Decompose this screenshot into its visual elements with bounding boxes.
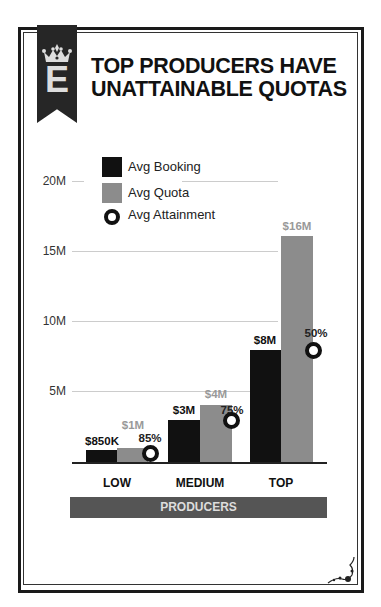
label-medium-booking: $3M (159, 404, 209, 416)
gridline-15m (72, 251, 278, 252)
legend-label-quota: Avg Quota (128, 185, 189, 200)
label-top-attainment: 50% (291, 327, 341, 339)
legend-swatch-quota (102, 183, 122, 203)
xtick-low: LOW (77, 476, 157, 490)
label-medium-quota: $4M (191, 388, 241, 400)
attainment-marker-low (142, 445, 159, 462)
ytick-20m: 20M (26, 174, 66, 188)
xtick-top: TOP (241, 476, 321, 490)
gridline-20m-right (182, 181, 278, 182)
ytick-5m: 5M (26, 384, 66, 398)
title-line-1: TOP PRODUCERS HAVE (91, 55, 347, 78)
chart-title: TOP PRODUCERS HAVE UNATTAINABLE QUOTAS (91, 55, 347, 101)
label-low-booking: $850K (77, 435, 127, 447)
gridline-20m (72, 181, 84, 182)
ytick-10m: 10M (26, 314, 66, 328)
corner-ornament-icon (326, 555, 356, 585)
legend-swatch-booking (102, 157, 122, 177)
x-axis-line (72, 462, 327, 464)
label-top-quota: $16M (272, 220, 322, 232)
x-axis-title-band: PRODUCERS (70, 497, 327, 518)
gridline-10m (72, 321, 278, 322)
bar-top-booking (250, 350, 281, 462)
badge-letter: E (43, 63, 71, 97)
label-low-quota: $1M (108, 419, 158, 431)
legend-label-attainment: Avg Attainment (128, 207, 215, 222)
title-line-2: UNATTAINABLE QUOTAS (91, 78, 347, 101)
gridline-5m (72, 391, 278, 392)
legend-label-booking: Avg Booking (128, 159, 201, 174)
legend-attainment-circle-icon (104, 209, 120, 225)
label-top-booking: $8M (240, 334, 290, 346)
bar-medium-booking (168, 420, 200, 462)
ytick-15m: 15M (26, 244, 66, 258)
xtick-medium: MEDIUM (160, 476, 240, 490)
attainment-marker-medium (223, 412, 240, 429)
bar-low-booking (86, 450, 117, 462)
attainment-marker-top (305, 342, 322, 359)
